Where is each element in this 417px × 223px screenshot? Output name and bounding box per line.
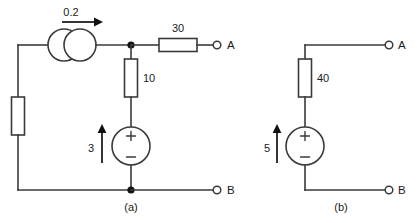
- resistor-30-body: [159, 39, 197, 52]
- voltage-source-3-label: 3: [88, 142, 94, 154]
- resistor-40-body: [299, 59, 312, 97]
- terminal-a-circle-b: [385, 41, 393, 49]
- terminal-b-label-b: B: [398, 184, 406, 196]
- current-source-circle-right: [64, 29, 96, 61]
- resistor-6-body: [12, 97, 25, 135]
- terminal-a-circle-a: [213, 41, 221, 49]
- terminal-b-circle-a: [213, 186, 221, 194]
- current-source-label: 0.2: [63, 6, 78, 18]
- resistor-10-body: [125, 59, 138, 97]
- schematic-canvas: 0.2 10 3 30 A: [0, 0, 417, 223]
- voltage-arrow-3-head: [98, 124, 107, 133]
- caption-circuit-b: (b): [334, 201, 347, 213]
- terminal-b-circle-b: [385, 186, 393, 194]
- caption-circuit-a: (a): [124, 201, 137, 213]
- terminal-a-label-b: A: [398, 39, 406, 51]
- circuit-a: 0.2 10 3 30 A: [12, 6, 236, 213]
- circuit-b: 40 5 A B (b): [264, 39, 406, 213]
- resistor-30-label: 30: [172, 22, 184, 34]
- terminal-a-label-a: A: [227, 39, 235, 51]
- resistor-40-label: 40: [317, 72, 329, 84]
- current-arrow-head: [94, 18, 103, 27]
- terminal-b-label-a: B: [227, 184, 235, 196]
- circuit-diagram: 0.2 10 3 30 A: [0, 0, 417, 223]
- voltage-source-5-label: 5: [264, 142, 270, 154]
- voltage-arrow-5-head: [273, 124, 282, 133]
- resistor-10-label: 10: [143, 72, 155, 84]
